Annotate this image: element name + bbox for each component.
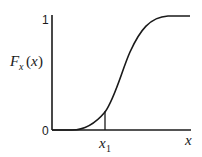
- x-axis-label: x: [184, 132, 192, 148]
- y-axis-label-var: x: [30, 53, 38, 69]
- y-tick-0: 0: [42, 124, 49, 138]
- cdf-diagram: 1 0 F x ( x ) x x 1: [0, 0, 202, 157]
- y-axis-label-sub: x: [18, 61, 24, 72]
- y-axis-label-close: ): [38, 53, 43, 70]
- x1-label-main: x: [98, 135, 106, 151]
- cdf-curve: [52, 16, 190, 130]
- y-tick-1: 1: [42, 13, 49, 27]
- x1-label-sub: 1: [106, 143, 111, 154]
